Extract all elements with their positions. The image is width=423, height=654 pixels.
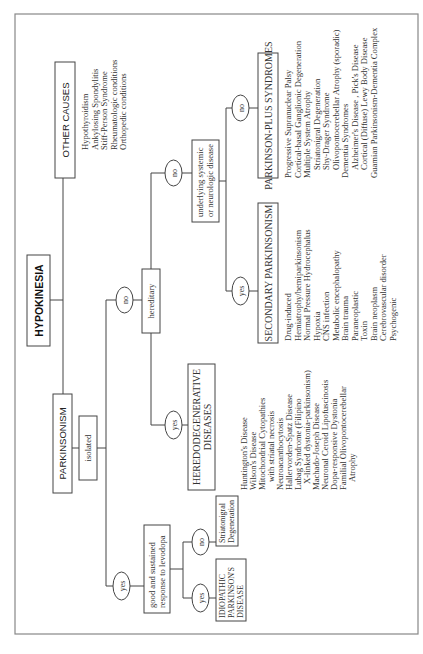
hereditary-node[interactable]: hereditary	[142, 269, 160, 333]
list-item: Hemiatrophy/hemiparkinsonism	[293, 229, 303, 341]
list-item: Orthopedic conditions	[118, 73, 128, 150]
levodopa-response-node[interactable]: good and sustained response to levodopa	[144, 525, 170, 613]
list-item: Striatonigral Degeneration	[312, 78, 322, 170]
list-item: Drug-induced	[283, 293, 293, 341]
list-item: Rheumatologic conditions	[109, 59, 119, 150]
striatonigral-line-2: Degeneration	[227, 500, 236, 543]
idiopathic-line-2: PARKINSON'S	[227, 567, 236, 618]
heredodegenerative-line-2: DISEASES	[202, 404, 213, 451]
heredodegenerative-list: Huntington's Disease Wilson's Disease Mi…	[239, 370, 357, 490]
other-causes-label: OTHER CAUSES	[60, 83, 71, 158]
list-item: Shy-Drager Syndrome	[321, 92, 331, 170]
parkinson-plus-node[interactable]: PARKINSON-PLUS SYNDROMES	[258, 41, 278, 189]
underlying-disease-node[interactable]: underlying systemic or neurologic diseas…	[192, 140, 219, 222]
no-label: no	[237, 104, 246, 112]
other-causes-list: Hypothyroidism Ankylosing Spondylitis St…	[80, 59, 128, 150]
list-item: Cortical (Diffuse) Lewy Body Disease	[359, 37, 369, 170]
list-item: Brain trauma	[340, 296, 350, 341]
hereditary-label: hereditary	[146, 283, 156, 319]
no-label: no	[170, 169, 179, 177]
list-item: Normal Pressure Hydrocephalus	[302, 229, 312, 341]
parkinson-plus-label: PARKINSON-PLUS SYNDROMES	[263, 41, 274, 189]
striatonigral-node[interactable]: Striatonigral Degeneration	[216, 496, 238, 546]
yes-label: yes	[170, 420, 179, 431]
underlying-line-1: underlying systemic	[195, 147, 205, 217]
list-item: Brain neoplasm	[369, 287, 379, 341]
secondary-parkinsonism-list: Drug-induced Hemiatrophy/hemiparkinsonis…	[283, 229, 398, 341]
levodopa-yes-oval: yes	[192, 584, 209, 612]
parkinson-plus-list: Progressive Supranuclear Palsy Cortical-…	[283, 27, 379, 178]
idiopathic-pd-node[interactable]: IDIOPATHIC PARKINSON'S DISEASE	[216, 559, 246, 621]
list-item: Cerebrovascular disorder	[378, 254, 388, 341]
heredodegenerative-node[interactable]: HEREDODEGENERATIVE DISEASES	[188, 364, 215, 490]
list-item: Atrophy	[347, 453, 357, 482]
list-item: Metabolic encephalopathy	[331, 249, 341, 341]
isolated-node[interactable]: isolated	[79, 416, 97, 480]
heredodegenerative-line-1: HEREDODEGENERATIVE	[191, 369, 202, 485]
no-label: no	[121, 296, 130, 304]
isolated-label: isolated	[83, 434, 93, 461]
list-item: Stiff-Person Syndrome	[99, 71, 109, 150]
list-item: Guamian Parkinsonism-Dementia Complex	[369, 27, 379, 178]
parkinsonism-label: PARKINSONISM	[57, 407, 68, 479]
hypokinesia-node[interactable]: HYPOKINESIA	[27, 255, 50, 346]
secondary-parkinsonism-node[interactable]: SECONDARY PARKINSONISM	[258, 203, 278, 343]
secondary-parkinsonism-label: SECONDARY PARKINSONISM	[263, 204, 274, 341]
hereditary-yes-oval: yes	[165, 411, 182, 439]
list-item: CNS infection	[321, 291, 331, 341]
list-item: Hypoxia	[312, 311, 322, 341]
levodopa-no-oval: no	[192, 529, 209, 555]
isolated-yes-oval: yes	[113, 572, 130, 600]
list-item: Ankylosing Spondylitis	[90, 68, 100, 150]
list-item: Dementia Syndromes	[340, 103, 350, 178]
list-item: Toxin	[359, 320, 369, 341]
yes-label: yes	[237, 286, 246, 297]
underlying-yes-oval: yes	[232, 277, 249, 305]
flowchart: HYPOKINESIA OTHER CAUSES Hypothyroidism …	[0, 0, 423, 654]
list-item: Paraneoplastic	[350, 291, 360, 341]
list-item: Alzheimer's Disease , Pick's Disease	[350, 44, 360, 170]
idiopathic-line-3: DISEASE	[236, 585, 245, 618]
list-item: Cortical-basal Ganglionic Degeneration	[293, 40, 303, 178]
striatonigral-line-1: Striatonigral	[218, 502, 227, 543]
parkinsonism-node[interactable]: PARKINSONISM	[53, 394, 72, 493]
levodopa-line-1: good and sustained	[147, 541, 157, 608]
list-item: Multiple System Atrophy	[302, 90, 312, 178]
list-item: Olivopontocerebellar Atrophy (sporadic)	[331, 30, 341, 170]
list-item: Hypothyroidism	[80, 93, 90, 150]
levodopa-line-2: response to levodopa	[157, 535, 167, 608]
no-label: no	[197, 538, 206, 546]
list-item: Progressive Supranuclear Palsy	[283, 69, 293, 178]
idiopathic-line-1: IDIOPATHIC	[218, 574, 227, 618]
yes-label: yes	[197, 593, 206, 604]
list-item: Psychogenic	[388, 297, 398, 341]
underlying-no-plus-oval: no	[232, 95, 249, 121]
hereditary-no-oval: no	[116, 287, 133, 313]
underlying-line-2: or neurologic disease	[205, 144, 215, 217]
yes-label: yes	[118, 581, 127, 592]
other-causes-node[interactable]: OTHER CAUSES	[55, 62, 75, 178]
underlying-no-oval: no	[165, 160, 182, 186]
hypokinesia-label: HYPOKINESIA	[33, 264, 45, 337]
